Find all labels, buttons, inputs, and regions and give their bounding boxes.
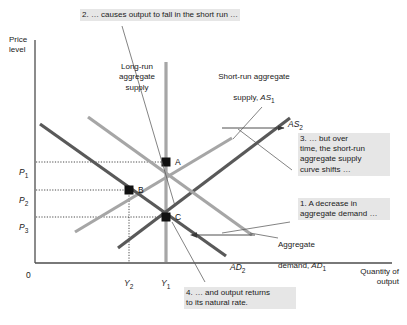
point-c-label: C — [175, 212, 181, 223]
sras2-label-text: AS — [288, 119, 299, 129]
leader-sras1 — [233, 107, 262, 139]
sras1-label: Short-run aggregate supply, AS1 — [206, 62, 302, 105]
callout-step1: 1. A decrease in aggregate demand … — [298, 198, 390, 220]
sras1-label-line1: Short-run aggregate — [218, 72, 290, 81]
x-tick-y2: Y2 — [124, 267, 133, 291]
ad2-label-text: AD — [230, 262, 242, 272]
sras2-label: AS2 — [288, 108, 303, 132]
sras1-curve — [75, 138, 232, 232]
y-tick-p3: P3 — [19, 211, 28, 235]
ad-as-diagram: 2. … causes output to fall in the short … — [0, 0, 407, 325]
ad1-label-line2: demand, AD1 — [278, 261, 326, 270]
y-tick-p1: P1 — [19, 156, 28, 180]
point-b-label: B — [138, 185, 144, 196]
leader-ad1 — [250, 233, 278, 238]
callout-step2: 2. … causes output to fall in the short … — [80, 9, 240, 21]
point-c-marker — [162, 213, 171, 222]
ad1-label-line1: Aggregate — [278, 240, 315, 249]
x-tick-y1: Y1 — [161, 267, 170, 291]
origin-label: 0 — [26, 270, 31, 281]
point-a-label: A — [175, 157, 181, 168]
point-b-marker — [125, 186, 134, 195]
guide-lines-group — [36, 162, 166, 262]
callout-step3: 3. … but over time, the short-run aggreg… — [298, 133, 390, 176]
sras2-curve — [118, 118, 290, 248]
y-axis-label: Price level — [9, 35, 27, 55]
sras1-label-line2: supply, AS1 — [233, 93, 274, 102]
ad2-label: AD2 — [230, 251, 245, 275]
y-tick-p2: P2 — [19, 184, 28, 208]
callout-step4: 4. … and output returns to its natural r… — [184, 287, 296, 309]
lras-label: Long-run aggregate supply — [112, 62, 162, 93]
ad1-label: Aggregate demand, AD1 — [278, 230, 362, 273]
